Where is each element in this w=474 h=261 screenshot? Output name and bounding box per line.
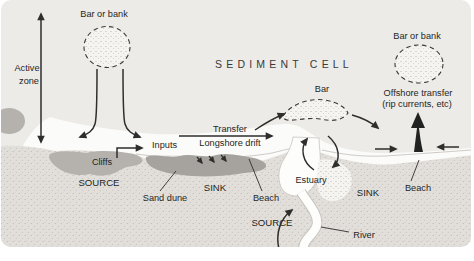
bar-or-bank-right-label: Bar or bank	[393, 31, 441, 41]
source-river-label: SOURCE	[251, 217, 292, 228]
bar-or-bank-right-shape	[395, 45, 443, 83]
bar-label: Bar	[315, 84, 329, 94]
cliffs-label: Cliffs	[92, 157, 113, 167]
sediment-cell-diagram: SEDIMENT CELL Bar or bank Active zone In…	[0, 0, 474, 261]
estuary-label: Estuary	[295, 175, 327, 185]
bar-or-bank-left-label: Bar or bank	[80, 9, 128, 19]
offshore-transfer-label-line1: Offshore transfer	[384, 88, 453, 98]
longshore-drift-label: Longshore drift	[199, 138, 261, 148]
diagram-title: SEDIMENT CELL	[215, 58, 353, 70]
transfer-label: Transfer	[213, 124, 247, 134]
sink-left-label: SINK	[204, 182, 227, 193]
beach-left-label: Beach	[253, 193, 279, 203]
river-label: River	[353, 230, 374, 240]
bar-or-bank-left-shape	[84, 27, 130, 68]
beach-right-label: Beach	[405, 183, 431, 193]
active-zone-label-line2: zone	[19, 76, 39, 86]
active-zone-label-line1: Active	[14, 63, 39, 73]
source-left-label: SOURCE	[78, 177, 119, 188]
sink-right-label: SINK	[357, 187, 380, 198]
offshore-transfer-label-line2: (rip currents, etc)	[382, 99, 451, 109]
diagram-canvas: SEDIMENT CELL Bar or bank Active zone In…	[0, 0, 474, 261]
inputs-label: Inputs	[152, 140, 177, 150]
sand-dune-label: Sand dune	[143, 193, 187, 203]
